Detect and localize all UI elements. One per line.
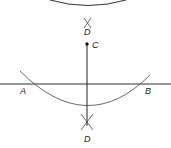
label-a: A: [19, 86, 26, 96]
point-c: [85, 42, 88, 45]
label-c: C: [92, 40, 99, 50]
label-d-lower: D: [84, 134, 91, 144]
arc-through-a-b: [20, 71, 150, 106]
label-b: B: [145, 86, 151, 96]
label-d-upper: D: [84, 27, 91, 37]
geometry-diagram: D C A B D: [0, 0, 171, 148]
top-arc: [50, 0, 126, 6]
